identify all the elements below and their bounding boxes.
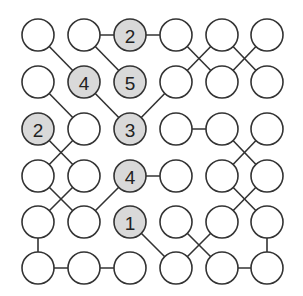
node-circle[interactable]	[22, 252, 54, 284]
puzzle-grid: 2452341	[0, 0, 303, 296]
empty-node[interactable]	[251, 160, 283, 192]
clue-node[interactable]: 4	[114, 160, 146, 192]
node-circle[interactable]	[22, 160, 54, 192]
node-circle[interactable]	[160, 66, 192, 98]
empty-node[interactable]	[160, 113, 192, 145]
node-circle[interactable]	[160, 206, 192, 238]
empty-node[interactable]	[68, 206, 100, 238]
node-circle[interactable]	[251, 160, 283, 192]
node-circle[interactable]	[160, 160, 192, 192]
clue-node[interactable]: 3	[114, 113, 146, 145]
empty-node[interactable]	[22, 206, 54, 238]
empty-node[interactable]	[22, 160, 54, 192]
clue-node[interactable]: 2	[22, 113, 54, 145]
clue-node[interactable]: 2	[114, 19, 146, 51]
empty-node[interactable]	[22, 66, 54, 98]
node-circle[interactable]	[114, 113, 146, 145]
empty-node[interactable]	[22, 19, 54, 51]
node-circle[interactable]	[251, 113, 283, 145]
empty-node[interactable]	[206, 252, 238, 284]
node-circle[interactable]	[22, 19, 54, 51]
node-circle[interactable]	[68, 160, 100, 192]
empty-node[interactable]	[68, 160, 100, 192]
node-circle[interactable]	[251, 19, 283, 51]
empty-node[interactable]	[160, 252, 192, 284]
node-circle[interactable]	[68, 19, 100, 51]
empty-node[interactable]	[251, 113, 283, 145]
node-circle[interactable]	[160, 19, 192, 51]
node-circle[interactable]	[22, 113, 54, 145]
node-circle[interactable]	[114, 206, 146, 238]
empty-node[interactable]	[251, 19, 283, 51]
empty-node[interactable]	[160, 66, 192, 98]
empty-node[interactable]	[206, 206, 238, 238]
empty-node[interactable]	[160, 160, 192, 192]
clue-node[interactable]: 5	[114, 66, 146, 98]
puzzle-board: 2452341	[0, 0, 303, 296]
node-circle[interactable]	[114, 66, 146, 98]
node-circle[interactable]	[160, 252, 192, 284]
node-circle[interactable]	[22, 206, 54, 238]
node-circle[interactable]	[68, 206, 100, 238]
node-circle[interactable]	[68, 113, 100, 145]
node-circle[interactable]	[206, 66, 238, 98]
empty-node[interactable]	[206, 113, 238, 145]
node-circle[interactable]	[251, 206, 283, 238]
node-circle[interactable]	[206, 19, 238, 51]
node-circle[interactable]	[251, 66, 283, 98]
node-circle[interactable]	[206, 160, 238, 192]
empty-node[interactable]	[251, 252, 283, 284]
node-circle[interactable]	[114, 19, 146, 51]
empty-node[interactable]	[206, 19, 238, 51]
node-circle[interactable]	[68, 252, 100, 284]
empty-node[interactable]	[160, 206, 192, 238]
empty-node[interactable]	[206, 160, 238, 192]
empty-node[interactable]	[68, 113, 100, 145]
node-circle[interactable]	[114, 160, 146, 192]
node-circle[interactable]	[206, 206, 238, 238]
empty-node[interactable]	[251, 206, 283, 238]
empty-node[interactable]	[68, 19, 100, 51]
empty-node[interactable]	[68, 252, 100, 284]
node-circle[interactable]	[68, 66, 100, 98]
node-circle[interactable]	[251, 252, 283, 284]
node-circle[interactable]	[206, 252, 238, 284]
node-circle[interactable]	[22, 66, 54, 98]
empty-node[interactable]	[160, 19, 192, 51]
empty-node[interactable]	[114, 252, 146, 284]
empty-node[interactable]	[206, 66, 238, 98]
empty-node[interactable]	[22, 252, 54, 284]
clue-node[interactable]: 1	[114, 206, 146, 238]
node-circle[interactable]	[206, 113, 238, 145]
clue-node[interactable]: 4	[68, 66, 100, 98]
empty-node[interactable]	[251, 66, 283, 98]
node-circle[interactable]	[114, 252, 146, 284]
node-circle[interactable]	[160, 113, 192, 145]
